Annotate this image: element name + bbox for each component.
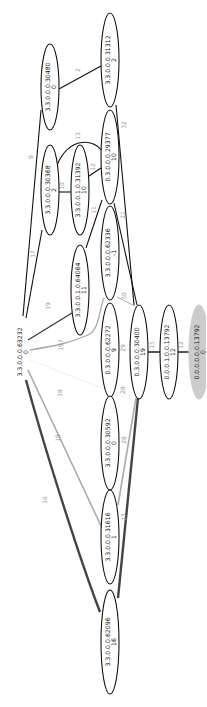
edge: 27 xyxy=(118,398,138,598)
node-value: 16 xyxy=(110,638,117,646)
node-label: 3.3.0.0.0.632320 xyxy=(16,327,30,376)
edge: 17 xyxy=(26,230,42,318)
node-value: 10 xyxy=(80,186,87,194)
edge: 19 xyxy=(28,302,72,340)
edge-label: 28 xyxy=(119,386,126,394)
edge-label: 11 xyxy=(90,206,97,214)
edge-label: 17 xyxy=(29,250,36,258)
graph-node[interactable]: 3.3.0.0.0.313122 xyxy=(101,13,119,107)
edge-line xyxy=(28,370,102,528)
nodes-layer: 3.3.0.0.0.3131223.3.0.0.0.3048000.3.0.0.… xyxy=(16,13,207,694)
edge-line xyxy=(26,230,42,318)
graph-node[interactable]: 3.3.0.0.0.305920 xyxy=(101,396,119,490)
graph-node[interactable]: 3.3.0.0.1.0.6406411 xyxy=(71,245,89,335)
edge-label: 19 xyxy=(44,302,51,310)
edge: 28 xyxy=(118,386,132,396)
edge: 19 xyxy=(28,370,102,528)
graph-node[interactable]: 0.0.0.1.0.0.1379212 xyxy=(160,305,178,399)
node-value: 0 xyxy=(110,441,117,445)
edge-label: 197 xyxy=(57,339,64,351)
graph-node[interactable]: 3.3.0.0.0.316161 xyxy=(101,490,119,584)
edge-label: 19 xyxy=(54,434,61,442)
graph-node[interactable]: 3.3.0.0.0.632320 xyxy=(16,327,30,376)
edge: 2 xyxy=(59,66,101,89)
edge-line xyxy=(26,380,100,612)
node-value: 12 xyxy=(169,348,176,356)
edge-label: 28 xyxy=(120,436,127,444)
edge-label: 30 xyxy=(120,292,127,300)
graph-node[interactable]: 3.3.0.0.1.0.3139210 xyxy=(71,145,89,235)
node-value: -1 xyxy=(110,250,117,256)
graph-node[interactable]: 0.3.0.0.0.3040019 xyxy=(130,305,148,399)
graph-node[interactable]: 3.3.0.0.0.304800 xyxy=(41,44,59,130)
edge-label: 2 xyxy=(74,68,81,72)
edge: 197 xyxy=(30,298,104,351)
edge: 29 xyxy=(118,344,130,352)
node-value: 0 xyxy=(50,85,57,89)
edge: 32 xyxy=(116,105,134,305)
edge: 12 xyxy=(177,341,189,352)
node-value: 0 xyxy=(199,350,206,354)
edge-label: 16 xyxy=(41,496,48,504)
edge-label: 15 xyxy=(148,341,155,349)
node-value: 1 xyxy=(110,535,117,539)
edge-label: 29 xyxy=(119,344,126,352)
graph-node[interactable]: 3.3.0.0.0.303682 xyxy=(41,145,59,235)
node-value: 10 xyxy=(110,153,117,161)
node-value: 9 xyxy=(110,348,117,352)
edge-line xyxy=(118,398,138,598)
edge: 16 xyxy=(26,380,100,612)
graph-node[interactable]: 0.0.0.0.0.0.137920 xyxy=(189,305,206,399)
node-value: 2 xyxy=(50,188,57,192)
graph-node[interactable]: 3.3.0.0.0.6209616 xyxy=(101,590,119,694)
graph-canvas: 2917131012321121191973018292819281627151… xyxy=(0,0,206,707)
node-value: 2 xyxy=(110,58,117,62)
graph-node[interactable]: 0.3.0.0.0.622729 xyxy=(101,303,119,397)
graph-node[interactable]: 0.3.0.0.0.2937710 xyxy=(101,110,119,204)
edge-line xyxy=(116,105,134,305)
edge: 10 xyxy=(58,182,71,192)
edge: 12 xyxy=(89,163,101,176)
edge-label: 27 xyxy=(120,513,127,521)
edge-label: 12 xyxy=(89,163,96,171)
edge-label: 32 xyxy=(120,121,127,129)
edge-label: 9 xyxy=(27,155,34,159)
graph-node[interactable]: 3.3.0.0.0.62336-1 xyxy=(101,206,119,300)
edge-label: 21 xyxy=(119,211,126,219)
edge-label: 18 xyxy=(56,389,63,397)
node-value: 11 xyxy=(80,286,87,294)
node-value: 0 xyxy=(22,350,29,354)
node-value: 19 xyxy=(139,348,146,356)
edge-label: 13 xyxy=(74,132,81,140)
edge-line xyxy=(30,298,104,350)
edge: 30 xyxy=(117,292,135,306)
edge: 15 xyxy=(148,341,160,352)
edge-line xyxy=(28,313,72,340)
